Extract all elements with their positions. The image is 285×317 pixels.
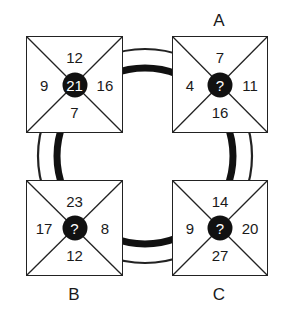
box-center-unknown: ? — [208, 216, 233, 241]
box-bottom-value: 16 — [212, 105, 229, 120]
box-left-value: 17 — [36, 221, 53, 236]
box-right-value: 20 — [242, 221, 259, 236]
box-top-value: 12 — [66, 49, 83, 64]
box-b: 23 17 8 12 ? — [26, 180, 123, 276]
box-c: 14 9 20 27 ? — [172, 180, 268, 276]
box-left-value: 9 — [40, 77, 48, 92]
box-bottom-value: 7 — [70, 105, 78, 120]
box-top-value: 14 — [212, 193, 229, 208]
box-top-left: 12 9 16 7 21 — [26, 36, 123, 133]
box-top-value: 23 — [66, 193, 83, 208]
box-top-value: 7 — [216, 49, 224, 64]
label-c: C — [213, 285, 225, 305]
box-a: 7 4 11 16 ? — [172, 36, 268, 133]
box-center-unknown: ? — [208, 72, 233, 97]
box-left-value: 9 — [186, 221, 194, 236]
box-bottom-value: 12 — [66, 248, 83, 263]
label-a: A — [213, 11, 224, 31]
box-right-value: 8 — [101, 221, 109, 236]
box-right-value: 16 — [97, 77, 114, 92]
box-center-unknown: ? — [62, 216, 87, 241]
box-right-value: 11 — [242, 77, 258, 92]
box-bottom-value: 27 — [212, 248, 229, 263]
label-b: B — [68, 285, 79, 305]
box-left-value: 4 — [186, 77, 194, 92]
box-center-value: 21 — [62, 72, 87, 97]
